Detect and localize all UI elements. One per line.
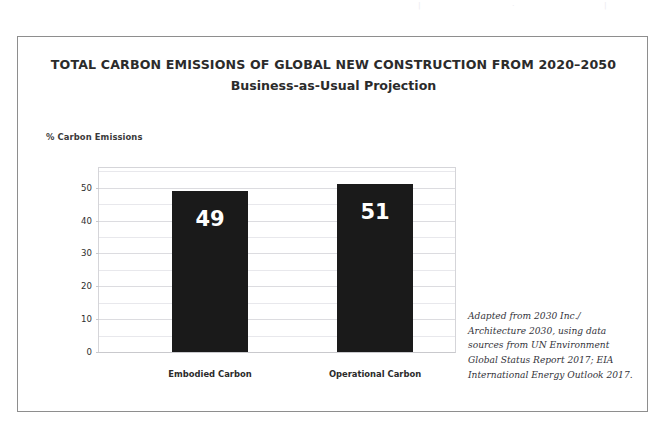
page-bleed-text: | · | (0, 0, 666, 14)
y-tick-label: 10 (81, 314, 92, 324)
y-tick-mark (96, 352, 99, 353)
chart-subtitle: Business-as-Usual Projection (18, 79, 649, 92)
x-category-label: Embodied Carbon (168, 369, 251, 379)
plot-area: 0102030405049Embodied Carbon51Operationa… (98, 167, 456, 353)
y-tick-mark (96, 188, 99, 189)
x-category-label: Operational Carbon (329, 369, 421, 379)
y-tick-label: 40 (81, 216, 92, 226)
y-tick-label: 50 (81, 183, 92, 193)
bar: 51Operational Carbon (337, 184, 413, 352)
chart-title: TOTAL CARBON EMISSIONS OF GLOBAL NEW CON… (18, 58, 649, 71)
bleed-fragment-2: · (512, 1, 517, 10)
y-axis-title: % Carbon Emissions (46, 132, 143, 142)
title-block: TOTAL CARBON EMISSIONS OF GLOBAL NEW CON… (18, 58, 649, 92)
y-tick-mark (96, 286, 99, 287)
y-tick-label: 30 (81, 248, 92, 258)
figure-frame: TOTAL CARBON EMISSIONS OF GLOBAL NEW CON… (17, 36, 648, 412)
y-tick-label: 0 (87, 347, 92, 357)
y-tick-mark (96, 221, 99, 222)
bleed-fragment-3: | (604, 1, 609, 10)
y-tick-label: 20 (81, 281, 92, 291)
y-tick-mark (96, 253, 99, 254)
gridline-minor (99, 171, 455, 172)
source-note: Adapted from 2030 Inc./ Architecture 203… (468, 309, 640, 383)
bar: 49Embodied Carbon (172, 191, 248, 352)
bar-value-label: 51 (337, 202, 413, 223)
bleed-fragment-1: | (418, 1, 423, 10)
bar-value-label: 49 (172, 209, 248, 230)
y-tick-mark (96, 319, 99, 320)
